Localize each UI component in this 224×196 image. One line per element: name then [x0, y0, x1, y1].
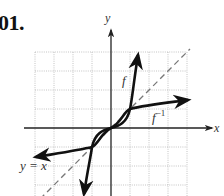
- label-f: f: [122, 73, 128, 88]
- label-identity: y = x: [18, 158, 47, 173]
- x-axis-label: x: [213, 121, 220, 135]
- function-inverse-graph: x y f f−1 y = x: [0, 0, 224, 196]
- label-f-inverse: f−1: [152, 108, 165, 125]
- y-axis-label: y: [104, 11, 111, 25]
